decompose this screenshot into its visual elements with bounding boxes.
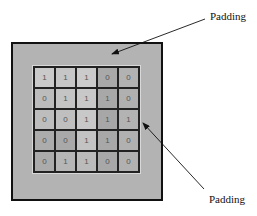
- grid-cell: 0: [55, 130, 76, 151]
- grid-cell: 0: [55, 109, 76, 130]
- grid-cell: 0: [34, 109, 55, 130]
- padding-label-top: Padding: [210, 10, 246, 22]
- grid-cell: 1: [97, 109, 118, 130]
- input-matrix-grid: 1110001110001110011001100: [33, 66, 140, 173]
- grid-cell: 0: [118, 151, 139, 172]
- grid-cell: 0: [34, 130, 55, 151]
- grid-cell: 0: [118, 67, 139, 88]
- grid-cell: 1: [97, 88, 118, 109]
- grid-cell: 1: [97, 130, 118, 151]
- grid-cell: 1: [76, 67, 97, 88]
- grid-cell: 0: [34, 88, 55, 109]
- grid-cell: 1: [55, 67, 76, 88]
- grid-cell: 1: [76, 109, 97, 130]
- grid-cell: 1: [55, 151, 76, 172]
- grid-cell: 0: [118, 88, 139, 109]
- grid-cell: 0: [118, 130, 139, 151]
- grid-cell: 1: [76, 151, 97, 172]
- grid-cell: 1: [76, 130, 97, 151]
- grid-cell: 1: [34, 67, 55, 88]
- grid-cell: 1: [55, 88, 76, 109]
- grid-cell: 1: [118, 109, 139, 130]
- grid-cell: 1: [76, 88, 97, 109]
- grid-cell: 0: [97, 67, 118, 88]
- grid-cell: 0: [97, 151, 118, 172]
- grid-cell: 0: [34, 151, 55, 172]
- padding-label-bottom: Padding: [209, 193, 245, 205]
